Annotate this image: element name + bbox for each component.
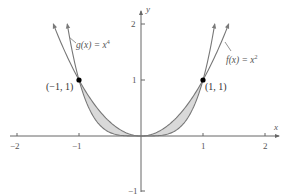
f-label-exponent: 2 [255,54,258,60]
tick-label-x-neg2: −2 [10,141,20,151]
point-label-right: (1, 1) [205,81,227,93]
tick-label-y-neg1: −1 [128,186,138,196]
point-neg1-1 [76,77,81,82]
f-label-leader [225,42,231,51]
g-label-text: g(x) = x [76,40,107,51]
y-axis-label: y [145,4,150,14]
tick-label-y-2: 2 [131,19,136,29]
tick-label-x-2: 2 [263,141,268,151]
f-function-label: f(x) = x2 [226,54,258,66]
tick-label-x-neg1: −1 [72,141,82,151]
g-label-exponent: 4 [107,39,110,45]
graph-figure: −2 −1 1 2 2 1 −1 y x g(x) = x4 f(x) = x2… [0,0,288,196]
y-ticks [141,24,145,191]
x-axis-label: x [273,122,278,132]
f-label-text: f(x) = x [226,55,255,66]
tick-label-y-1: 1 [132,75,137,85]
point-label-left: (−1, 1) [46,81,73,93]
tick-label-x-1: 1 [201,141,206,151]
g-function-label: g(x) = x4 [76,39,110,51]
